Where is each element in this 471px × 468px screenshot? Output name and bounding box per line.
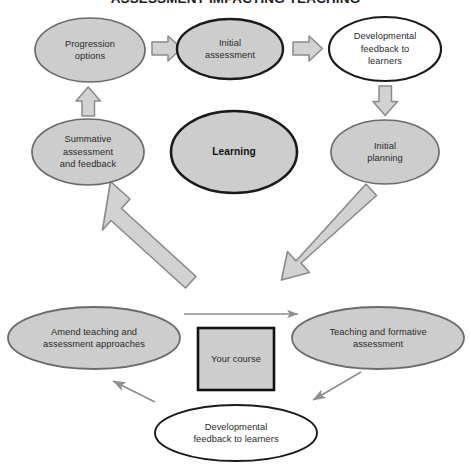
node-initial-planning[interactable] (331, 120, 439, 184)
connector-summative-to-progression (76, 87, 101, 116)
connector-amend-to-summative (103, 182, 197, 289)
diagram-graphics (0, 0, 471, 468)
node-progression-options[interactable] (35, 18, 145, 82)
node-teaching-formative[interactable] (292, 307, 464, 369)
node-initial-assessment[interactable] (177, 19, 283, 79)
node-your-course[interactable] (198, 328, 274, 390)
connector-initial-assessment-to-developmental-feedback (293, 36, 323, 61)
connector-teaching-to-feedback-thin (313, 372, 361, 400)
diagram-canvas: ASSESSMENT IMPACTING TEACHING (0, 0, 471, 468)
node-learning[interactable] (171, 111, 297, 193)
node-developmental-feedback-top[interactable] (329, 17, 441, 81)
connector-developmental-feedback-to-planning (373, 86, 398, 116)
connector-planning-to-teaching (282, 184, 377, 280)
connector-feedback-to-amend-thin (113, 381, 155, 402)
node-developmental-feedback-bottom[interactable] (155, 405, 317, 461)
node-summative-assessment[interactable] (32, 119, 144, 185)
node-amend-teaching[interactable] (8, 307, 180, 369)
